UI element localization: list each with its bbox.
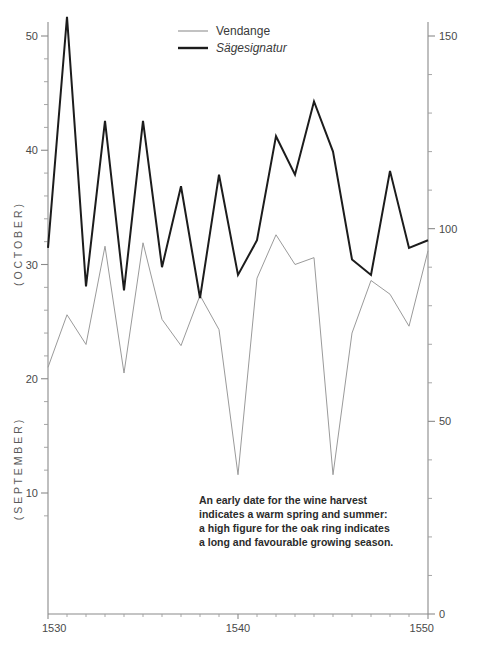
bottom-tick-label: 1530 [42, 622, 66, 634]
left-tick-label: 10 [26, 487, 38, 499]
right-tick-label: 100 [439, 223, 457, 235]
legend-label-vendange: Vendange [216, 24, 270, 38]
left-tick-label: 40 [26, 144, 38, 156]
left-tick-label: 20 [26, 373, 38, 385]
left-axis-title-september: ( S E P T E M B E R ) [12, 420, 24, 520]
annotation-line-2: indicates a warm spring and summer: [199, 508, 387, 520]
annotation-line-1: An early date for the wine harvest [199, 494, 368, 506]
left-tick-label: 50 [26, 30, 38, 42]
annotation-line-3: a high figure for the oak ring indicates [199, 522, 390, 534]
bottom-tick-label: 1540 [226, 622, 250, 634]
chart-container: 1020304050 ( O C T O B E R ) ( S E P T E… [0, 0, 479, 658]
left-tick-label: 30 [26, 259, 38, 271]
right-tick-label: 50 [439, 415, 451, 427]
bottom-tick-label: 1550 [410, 622, 434, 634]
legend-label-sagesignatur: Sägesignatur [216, 41, 288, 55]
right-tick-label: 150 [439, 30, 457, 42]
annotation-line-4: a long and favourable growing season. [199, 536, 393, 548]
left-axis-title-october: ( O C T O B E R ) [12, 204, 24, 286]
wine-harvest-oak-ring-chart: 1020304050 ( O C T O B E R ) ( S E P T E… [0, 0, 479, 658]
right-tick-label: 0 [439, 608, 445, 620]
